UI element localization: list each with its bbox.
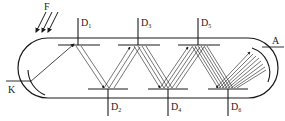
dynode-5-label: D5 bbox=[201, 17, 211, 29]
dynode-2-label: D2 bbox=[111, 101, 121, 113]
dynode-6-label: D6 bbox=[231, 101, 241, 113]
light-label: F bbox=[44, 1, 50, 12]
dynode-4-label: D4 bbox=[171, 101, 181, 113]
cathode-label: K bbox=[8, 84, 16, 95]
dynode-3-label: D3 bbox=[141, 17, 151, 29]
photocathode bbox=[28, 70, 45, 95]
electron-cascade bbox=[76, 46, 266, 88]
anode-label: A bbox=[272, 35, 280, 46]
dynode-1-label: D1 bbox=[81, 17, 91, 29]
photomultiplier-diagram: F K A bbox=[0, 0, 285, 121]
electron-path bbox=[30, 44, 74, 82]
light-rays-icon bbox=[36, 12, 58, 32]
